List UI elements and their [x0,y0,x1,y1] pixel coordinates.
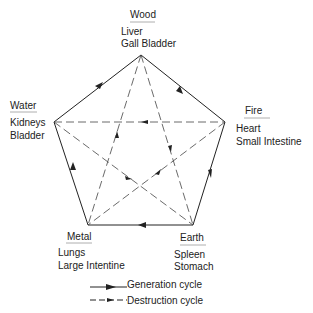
legend-destruction: Destruction cycle [127,295,203,307]
organ-kidneys: Kidneys [10,117,46,129]
generation-arrows [70,82,212,228]
element-water: Water [10,100,36,112]
five-elements-diagram: Wood Liver Gall Bladder Fire Heart Small… [0,0,313,313]
organ-spleen: Spleen [174,249,205,261]
element-wood: Wood [130,9,156,21]
organ-liver: Liver [121,26,143,38]
generation-cycle-lines [54,55,225,225]
legend-generation: Generation cycle [127,279,202,291]
organ-large-intestine: Large Intentine [58,260,125,272]
element-metal: Metal [67,231,91,243]
organ-heart: Heart [236,123,260,135]
element-fire: Fire [245,105,262,117]
organ-small-intestine: Small Intestine [236,136,302,148]
organ-stomach: Stomach [174,261,213,273]
organ-bladder: Bladder [10,130,44,142]
organ-lungs: Lungs [58,247,85,259]
organ-gall-bladder: Gall Bladder [121,38,176,50]
element-earth: Earth [180,232,204,244]
